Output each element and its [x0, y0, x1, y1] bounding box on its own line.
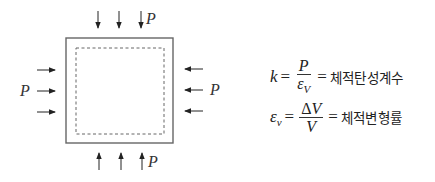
strain-symbol: ε [270, 107, 277, 126]
subscript: v [277, 116, 282, 128]
top-load-arrows: P [98, 10, 156, 28]
equals-sign: = [281, 67, 291, 87]
left-load-arrows: P [19, 70, 55, 112]
volumetric-strain-formula: εv = ΔV V = 체적변형률 [270, 98, 435, 136]
numerator: P [297, 57, 311, 75]
bulk-modulus-symbol: k [270, 67, 278, 87]
bulk-modulus-meaning: 체적탄성계수 [330, 67, 404, 87]
bottom-load-arrows: P [99, 153, 158, 170]
bulk-modulus-formula: k = P εV = 체적탄성계수 [270, 58, 435, 96]
right-load-arrows: P [185, 69, 220, 111]
load-label-bottom: P [147, 153, 158, 170]
hydrostatic-compression-diagram: P P P P [0, 0, 250, 182]
equals-sign: = [317, 67, 327, 87]
formula-block: k = P εV = 체적탄성계수 εv = ΔV V = 체적변형률 [270, 58, 435, 136]
fraction: ΔV V [299, 100, 323, 135]
volumetric-strain-meaning: 체적변형률 [341, 107, 403, 127]
compressed-block-dashed-outline [76, 48, 164, 134]
numerator: ΔV [299, 100, 323, 118]
subscript: V [303, 83, 310, 95]
load-label-left: P [19, 82, 30, 99]
outer-block-outline [66, 38, 173, 143]
denominator: V [304, 118, 318, 135]
denominator: εV [295, 75, 312, 98]
equals-sign: = [328, 107, 338, 127]
load-label-right: P [209, 81, 220, 98]
delta-symbol: Δ [301, 100, 311, 117]
fraction: P εV [295, 57, 312, 98]
equals-sign: = [285, 107, 295, 127]
load-label-top: P [145, 10, 156, 27]
volumetric-strain-symbol: εv [270, 107, 282, 128]
volume-symbol: V [311, 100, 321, 117]
